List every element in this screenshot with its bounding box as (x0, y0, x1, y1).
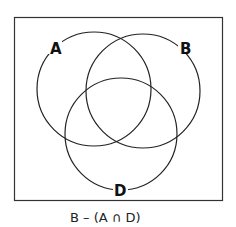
label-b: B (180, 40, 191, 58)
venn-diagram: A B D B – (A ∩ D) (0, 0, 236, 227)
label-d: D (114, 182, 126, 200)
caption: B – (A ∩ D) (70, 210, 141, 225)
circle-d (65, 78, 177, 190)
label-a: A (50, 40, 62, 58)
